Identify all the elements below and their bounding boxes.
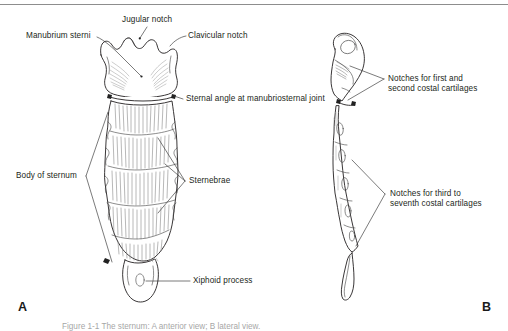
leader-lines-panel-b [348, 66, 385, 246]
label-sternebrae: Sternebrae [189, 176, 230, 186]
label-manubrium-sterni: Manubrium sterni [26, 31, 91, 41]
panel-letter-a: A [18, 300, 27, 314]
sternum-illustration: .outline { fill:#ffffff; stroke:#231f20;… [0, 0, 508, 331]
label-xiphoid-process: Xiphoid process [193, 276, 253, 286]
label-clavicular-notch: Clavicular notch [188, 31, 248, 41]
panel-b-lateral-sternum [331, 33, 385, 300]
xiphoid-process-shape [123, 258, 159, 302]
figure-page: .outline { fill:#ffffff; stroke:#231f20;… [0, 0, 508, 331]
panel-letter-b: B [482, 300, 491, 314]
manubrium-lateral-shape [331, 33, 364, 101]
label-jugular-notch: Jugular notch [122, 15, 172, 25]
label-sternal-angle: Sternal angle at manubriosternal joint [186, 94, 325, 104]
leader-notches-third-seventh [352, 160, 385, 246]
label-notches-first-second-line2: second costal cartilages [388, 84, 477, 94]
body-lateral-shape [333, 106, 358, 252]
label-notches-first-second-line1: Notches for first and [388, 74, 463, 84]
label-body-of-sternum: Body of sternum [16, 171, 77, 181]
panel-a-anterior-sternum [86, 27, 190, 302]
label-notches-third-seventh-line1: Notches for third to [390, 189, 461, 199]
body-of-sternum-shape [103, 101, 178, 264]
xiphoid-process-lateral-shape [341, 253, 354, 300]
figure-caption: Figure 1-1 The sternum: A anterior view;… [62, 322, 260, 331]
label-notches-third-seventh-line2: seventh costal cartilages [390, 199, 482, 209]
leader-jugular-notch [140, 27, 147, 38]
leader-clavicular-notch [170, 36, 186, 46]
manubriosternal-joint-lateral [336, 99, 356, 106]
manubrium-sterni-shape [101, 38, 178, 98]
